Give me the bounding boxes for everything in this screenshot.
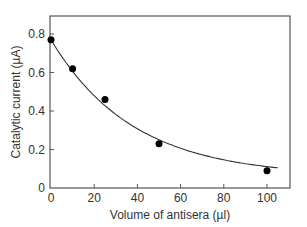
x-tick-label: 40 (131, 191, 145, 205)
data-point (69, 65, 76, 72)
y-tick-label: 0.6 (28, 66, 45, 80)
y-tick-label: 0 (38, 181, 45, 195)
fitted-curve (51, 40, 278, 168)
y-tick-label: 0.2 (28, 143, 45, 157)
data-points (48, 36, 271, 174)
x-tick-label: 80 (217, 191, 231, 205)
chart: 00.20.40.60.8 020406080100 Volume of ant… (0, 0, 307, 227)
y-tick-label: 0.8 (28, 27, 45, 41)
x-axis-ticks: 020406080100 (48, 184, 278, 205)
plot-frame (50, 16, 290, 188)
data-point (102, 96, 109, 103)
data-point (48, 36, 55, 43)
y-tick-label: 0.4 (28, 104, 45, 118)
y-axis-label: Catalytic current (µA) (9, 46, 23, 159)
x-tick-label: 60 (174, 191, 188, 205)
data-point (264, 167, 271, 174)
x-axis-label: Volume of antisera (µl) (110, 208, 230, 222)
data-point (156, 140, 163, 147)
x-tick-label: 100 (257, 191, 277, 205)
x-tick-label: 20 (88, 191, 102, 205)
x-tick-label: 0 (48, 191, 55, 205)
